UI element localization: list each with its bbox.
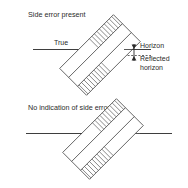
top-panel-caption: Side error present — [28, 10, 86, 19]
figure-container: Side error present True — [0, 0, 188, 188]
horizon-label: Horizon — [140, 42, 164, 49]
mirror-outline-top — [60, 15, 141, 96]
reflected-horizon-label-line2: horizon — [140, 64, 163, 71]
true-label: True — [54, 39, 68, 46]
arrow-down-icon — [132, 56, 137, 60]
side-error-diagram: Side error present True — [0, 0, 188, 188]
reflected-horizon-label-line1: Reflected — [140, 55, 170, 62]
mirror-body-top — [60, 15, 141, 96]
bottom-panel-caption: No indication of side error — [28, 103, 111, 112]
